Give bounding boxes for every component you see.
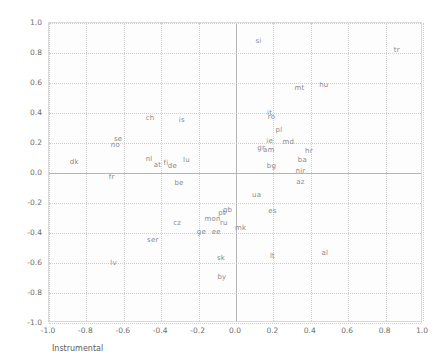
data-point-label: ie xyxy=(266,137,273,144)
y-tick-label: 0.2 xyxy=(16,138,42,147)
data-point-label: al xyxy=(321,250,328,257)
data-point-label: hu xyxy=(319,81,328,88)
data-point-label: hr xyxy=(305,148,313,155)
x-axis-title: Instrumental xyxy=(52,344,103,353)
y-tick-label: 0.6 xyxy=(16,78,42,87)
data-point-label: lu xyxy=(183,156,190,163)
data-point-label: bg xyxy=(267,162,276,169)
data-point-label: si xyxy=(255,38,261,45)
x-tick-label: -1.0 xyxy=(41,326,56,335)
x-tick-label: -0.6 xyxy=(115,326,130,335)
y-tick-label: 0.0 xyxy=(16,168,42,177)
data-point-label: fr xyxy=(109,173,115,180)
gridline-vertical xyxy=(311,23,312,321)
gridline-horizontal xyxy=(49,323,421,324)
y-tick-label: 1.0 xyxy=(16,18,42,27)
gridline-horizontal xyxy=(49,113,421,114)
data-point-label: pl xyxy=(276,127,283,134)
y-tick-label: -0.6 xyxy=(16,258,42,267)
plot-area: sitrhumtitrochisplseiemdnogramhrnllubadk… xyxy=(48,22,422,322)
y-tick-label: -1.0 xyxy=(16,318,42,327)
y-tick-label: 0.4 xyxy=(16,108,42,117)
data-point-label: mt xyxy=(295,84,305,91)
data-point-label: tr xyxy=(394,47,400,54)
data-point-label: ro xyxy=(268,113,275,120)
data-point-label: az xyxy=(296,179,304,186)
x-tick-label: 1.0 xyxy=(416,326,428,335)
x-tick-label: 0.0 xyxy=(229,326,241,335)
data-point-label: ge xyxy=(197,228,206,235)
data-point-label: nl xyxy=(146,155,153,162)
gridline-vertical xyxy=(273,23,274,321)
data-point-label: es xyxy=(268,207,276,214)
data-point-label: by xyxy=(217,274,226,281)
data-point-label: ee xyxy=(212,229,221,236)
scatter-plot-figure: sitrhumtitrochisplseiemdnogramhrnllubadk… xyxy=(0,0,445,364)
gridline-vertical xyxy=(86,23,87,321)
gridline-vertical xyxy=(161,23,162,321)
gridline-horizontal xyxy=(49,263,421,264)
x-tick-label: 0.6 xyxy=(341,326,353,335)
data-point-label: cz xyxy=(173,219,181,226)
x-tick-label: -0.2 xyxy=(190,326,205,335)
gridline-horizontal xyxy=(49,53,421,54)
data-point-label: md xyxy=(283,138,295,145)
gridline-vertical xyxy=(386,23,387,321)
x-tick-label: -0.8 xyxy=(78,326,93,335)
data-point-label: de xyxy=(168,163,177,170)
data-point-label: lt xyxy=(270,253,275,260)
data-point-label: ba xyxy=(298,157,307,164)
x-tick-label: -0.4 xyxy=(153,326,168,335)
data-point-label: dk xyxy=(70,158,79,165)
gridline-horizontal xyxy=(49,143,421,144)
data-point-label: am xyxy=(263,146,275,153)
y-tick-label: -0.2 xyxy=(16,198,42,207)
gridline-vertical xyxy=(199,23,200,321)
data-point-label: nir xyxy=(296,167,306,174)
data-point-label: at xyxy=(154,161,161,168)
gridline-horizontal xyxy=(49,23,421,24)
data-point-label: mon xyxy=(205,215,221,222)
x-tick-label: 0.2 xyxy=(266,326,278,335)
x-zero-line xyxy=(236,23,237,321)
data-point-label: lv xyxy=(110,260,117,267)
gridline-horizontal xyxy=(49,293,421,294)
y-tick-label: -0.8 xyxy=(16,288,42,297)
data-point-label: ua xyxy=(252,191,261,198)
data-point-label: mk xyxy=(235,224,246,231)
y-axis-tick-labels: 1.00.80.60.40.20.0-0.2-0.4-0.6-0.8-1.0 xyxy=(14,0,42,364)
gridline-horizontal xyxy=(49,203,421,204)
data-point-label: ch xyxy=(146,115,155,122)
gridline-horizontal xyxy=(49,83,421,84)
y-tick-label: -0.4 xyxy=(16,228,42,237)
gridline-vertical xyxy=(124,23,125,321)
y-tick-label: 0.8 xyxy=(16,48,42,57)
y-zero-line xyxy=(49,173,421,174)
x-tick-label: 0.4 xyxy=(304,326,316,335)
data-point-label: be xyxy=(174,179,183,186)
gridline-vertical xyxy=(423,23,424,321)
data-point-label: ru xyxy=(220,220,228,227)
x-tick-label: 0.8 xyxy=(379,326,391,335)
gridline-horizontal xyxy=(49,233,421,234)
data-point-label: sk xyxy=(217,254,225,261)
gridline-vertical xyxy=(348,23,349,321)
data-point-label: ser xyxy=(147,236,158,243)
data-point-label: no xyxy=(111,142,120,149)
data-point-label: is xyxy=(179,116,185,123)
gridline-vertical xyxy=(49,23,50,321)
